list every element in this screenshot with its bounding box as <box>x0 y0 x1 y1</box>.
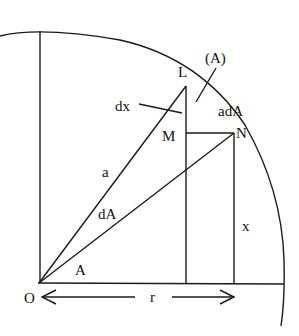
diagram-svg: L (A) dx adA M N a dA x A O r <box>0 0 299 336</box>
radius-ON <box>39 133 234 283</box>
circle-arc <box>0 32 284 326</box>
label-a: a <box>102 164 109 180</box>
label-M: M <box>162 128 175 144</box>
label-dA: dA <box>98 206 117 222</box>
circle-geometry-diagram: L (A) dx adA M N a dA x A O r <box>0 0 299 336</box>
base-line <box>38 283 284 284</box>
radius-OL <box>39 86 186 283</box>
label-A: A <box>75 262 86 278</box>
dx-pointer <box>139 104 182 113</box>
label-dx: dx <box>115 98 131 114</box>
label-adA: adA <box>218 103 243 119</box>
tangent-line <box>196 68 216 102</box>
label-A-paren: (A) <box>205 50 226 67</box>
label-x: x <box>242 218 250 234</box>
label-r: r <box>150 289 155 305</box>
label-O: O <box>24 290 35 306</box>
label-N: N <box>236 125 247 141</box>
label-L: L <box>178 64 187 80</box>
